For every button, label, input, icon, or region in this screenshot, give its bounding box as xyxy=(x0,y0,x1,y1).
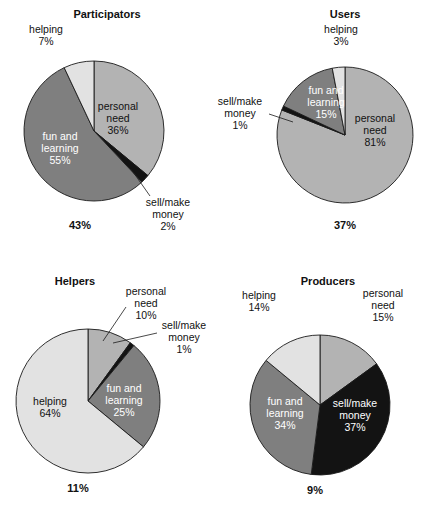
slice-label-line: helping xyxy=(324,23,358,35)
slice-label-line: sell/make xyxy=(162,319,207,331)
slice-label-line: 3% xyxy=(333,35,348,47)
slice-label-line: sell/make xyxy=(146,196,191,208)
slice-label-line: 1% xyxy=(176,343,191,355)
slice-label-line: 25% xyxy=(113,406,134,418)
chart-panel-users: Users personalneed81%sell/makemoney1%fun… xyxy=(215,0,430,256)
chart-panel-participators: Participators personalneed36%sell/makemo… xyxy=(0,0,215,256)
slice-label-line: need xyxy=(106,112,130,124)
slice-label-line: need xyxy=(363,124,387,136)
chart-panel-helpers: Helpers personalneed10%sell/makemoney1%f… xyxy=(0,257,215,513)
pie-chart-producers: Producers personalneed15%sell/makemoney3… xyxy=(215,257,430,513)
chart-title-helpers: Helpers xyxy=(55,275,95,287)
pie-slices-users xyxy=(277,67,413,203)
slice-label-line: helping xyxy=(29,23,63,35)
pie-chart-users: Users personalneed81%sell/makemoney1%fun… xyxy=(215,0,430,256)
slice-label-line: sell/make xyxy=(333,397,378,409)
pie-chart-participators: Participators personalneed36%sell/makemo… xyxy=(0,0,215,256)
slice-label-line: 36% xyxy=(107,124,128,136)
slice-label-line: personal xyxy=(363,287,403,299)
total-label-participators: 43% xyxy=(69,219,91,231)
slice-label-line: fun and xyxy=(308,84,343,96)
slice-label-line: helping xyxy=(242,289,276,301)
slice-label-line: learning xyxy=(266,407,304,419)
slice-label-line: personal xyxy=(126,285,166,297)
slice-label-line: money xyxy=(152,208,184,220)
slice-label-line: 81% xyxy=(364,136,385,148)
slice-label-line: personal xyxy=(98,100,138,112)
slice-label-line: 15% xyxy=(315,108,336,120)
slice-label-line: fun and xyxy=(42,130,77,142)
slice-label-line: fun and xyxy=(267,395,302,407)
slice-label-line: money xyxy=(224,107,256,119)
slice-label-line: 10% xyxy=(135,309,156,321)
slice-label-line: 2% xyxy=(160,220,175,232)
slice-label-line: fun and xyxy=(106,382,141,394)
pie-chart-figure: Participators personalneed36%sell/makemo… xyxy=(0,0,430,513)
slice-label-line: money xyxy=(339,409,371,421)
slice-label-line: sell/make xyxy=(218,95,263,107)
slice-label-line: learning xyxy=(105,394,143,406)
slice-label-line: personal xyxy=(355,112,395,124)
slice-label-line: learning xyxy=(307,96,345,108)
slice-label-line: learning xyxy=(41,142,79,154)
slice-label-line: 37% xyxy=(344,421,365,433)
chart-title-participators: Participators xyxy=(73,8,140,20)
slice-label-line: need xyxy=(371,299,395,311)
chart-title-users: Users xyxy=(330,8,361,20)
slice-label-line: 14% xyxy=(248,301,269,313)
slice-label-line: 55% xyxy=(49,154,70,166)
slice-label-line: 15% xyxy=(372,311,393,323)
total-label-users: 37% xyxy=(334,219,356,231)
slice-label-line: 34% xyxy=(274,419,295,431)
slice-label-line: 64% xyxy=(39,407,60,419)
chart-panel-producers: Producers personalneed15%sell/makemoney3… xyxy=(215,257,430,513)
total-label-helpers: 11% xyxy=(67,482,89,494)
slice-label-line: money xyxy=(168,331,200,343)
slice-label-line: helping xyxy=(33,395,67,407)
chart-title-producers: Producers xyxy=(301,275,355,287)
pie-chart-helpers: Helpers personalneed10%sell/makemoney1%f… xyxy=(0,257,215,513)
total-label-producers: 9% xyxy=(307,484,323,496)
slice-label-line: 1% xyxy=(232,119,247,131)
slice-label-line: need xyxy=(134,297,158,309)
slice-label-line: 7% xyxy=(38,35,53,47)
